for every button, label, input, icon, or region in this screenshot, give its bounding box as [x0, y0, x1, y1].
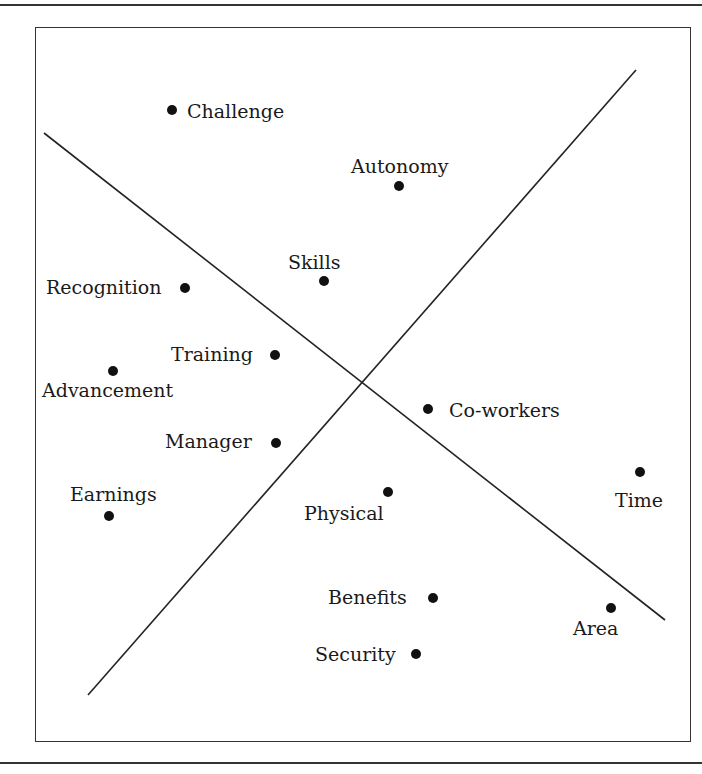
point-challenge-label: Challenge: [187, 102, 284, 121]
point-area-marker: [606, 603, 616, 613]
point-co-workers-marker: [423, 404, 433, 414]
point-advancement-label: Advancement: [42, 381, 173, 400]
point-time-label: Time: [615, 491, 663, 510]
point-recognition-label: Recognition: [46, 278, 162, 297]
point-training-label: Training: [171, 345, 253, 364]
perceptual-map: ChallengeAutonomySkillsRecognitionTraini…: [0, 0, 702, 774]
point-skills-marker: [319, 276, 329, 286]
point-challenge-marker: [167, 105, 177, 115]
point-autonomy-label: Autonomy: [351, 157, 448, 176]
point-autonomy-marker: [394, 181, 404, 191]
point-security-marker: [411, 649, 421, 659]
point-manager-marker: [271, 438, 281, 448]
point-time-marker: [635, 467, 645, 477]
point-physical-label: Physical: [304, 504, 384, 523]
point-area-label: Area: [573, 619, 618, 638]
point-earnings-marker: [104, 511, 114, 521]
descending-axis-line: [44, 133, 665, 620]
point-recognition-marker: [180, 283, 190, 293]
point-security-label: Security: [315, 645, 396, 664]
point-physical-marker: [383, 487, 393, 497]
point-skills-label: Skills: [288, 253, 341, 272]
point-manager-label: Manager: [165, 432, 252, 451]
point-co-workers-label: Co-workers: [449, 401, 560, 420]
point-training-marker: [270, 350, 280, 360]
point-earnings-label: Earnings: [70, 485, 157, 504]
point-benefits-label: Benefits: [328, 588, 407, 607]
point-advancement-marker: [108, 366, 118, 376]
point-benefits-marker: [428, 593, 438, 603]
